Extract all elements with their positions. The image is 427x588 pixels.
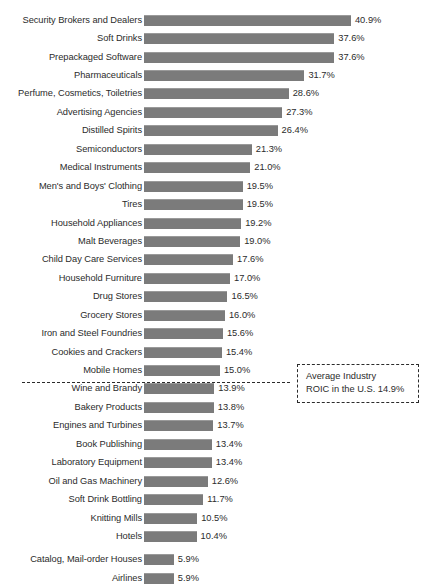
bar-area: 5.9% [144,554,427,565]
category-label: Malt Beverages [0,236,144,247]
value-label: 16.5% [231,291,257,302]
bar [144,52,334,63]
value-label: 21.3% [256,144,282,155]
bar-area: 15.6% [144,328,427,339]
value-label: 26.4% [282,125,308,136]
bar [144,476,208,487]
bar-area: 26.4% [144,125,427,136]
bar-area: 10.4% [144,531,427,542]
category-label: Soft Drinks [0,33,144,44]
value-label: 19.5% [247,199,273,210]
category-label: Security Brokers and Dealers [0,15,144,26]
category-label: Grocery Stores [0,310,144,321]
category-label: Cookies and Crackers [0,347,144,358]
bar-area: 21.3% [144,144,427,155]
bar-row: Hotels10.4% [0,527,427,545]
value-label: 16.0% [229,310,255,321]
value-label: 13.8% [218,402,244,413]
annotation-line-1: Average Industry [306,370,411,383]
category-label: Engines and Turbines [0,420,144,431]
bar [144,236,240,247]
category-label: Book Publishing [0,439,144,450]
category-label: Airlines [0,573,144,584]
bar-area: 5.9% [144,573,427,584]
category-label: Iron and Steel Foundries [0,328,144,339]
bar [144,328,223,339]
value-label: 13.4% [216,457,242,468]
bar-area: 21.0% [144,162,427,173]
category-label: Distilled Spirits [0,125,144,136]
bar-row: Drug Stores16.5% [0,288,427,306]
bar [144,457,212,468]
bar-row: Child Day Care Services17.6% [0,251,427,269]
category-label: Semiconductors [0,144,144,155]
value-label: 19.2% [245,218,271,229]
bar-row: Laboratory Equipment13.4% [0,454,427,472]
category-label: Child Day Care Services [0,254,144,265]
value-label: 12.6% [212,476,238,487]
bar-row: Soft Drink Bottling11.7% [0,490,427,508]
category-label: Laboratory Equipment [0,457,144,468]
bar [144,199,243,210]
bar-row: Security Brokers and Dealers40.9% [0,11,427,29]
category-label: Mobile Homes [0,365,144,376]
bar [144,573,174,584]
value-label: 11.7% [207,494,233,505]
bar [144,420,213,431]
bar [144,291,227,302]
category-label: Drug Stores [0,291,144,302]
bar-area: 37.6% [144,52,427,63]
bar [144,494,203,505]
bar-area: 13.7% [144,420,427,431]
bar [144,439,212,450]
bar-area: 12.6% [144,476,427,487]
bar [144,273,230,284]
value-label: 10.5% [201,513,227,524]
bar-row: Malt Beverages19.0% [0,232,427,250]
annotation-line-2: ROIC in the U.S. 14.9% [306,383,411,396]
bar-rows: Security Brokers and Dealers40.9%Soft Dr… [0,11,427,588]
value-label: 15.4% [226,347,252,358]
bar-row: Engines and Turbines13.7% [0,417,427,435]
bar-area: 37.6% [144,33,427,44]
value-label: 27.3% [286,107,312,118]
bar-row: Men's and Boys' Clothing19.5% [0,177,427,195]
bar [144,15,351,26]
bar-area: 19.0% [144,236,427,247]
value-label: 17.0% [234,273,260,284]
bar-area: 17.0% [144,273,427,284]
category-label: Wine and Brandy [0,383,144,394]
value-label: 28.6% [293,88,319,99]
bar-row: Catalog, Mail-order Houses5.9% [0,551,427,569]
bar [144,347,222,358]
bar-row: Tires19.5% [0,195,427,213]
bar [144,218,241,229]
bar [144,33,334,44]
bar [144,70,304,81]
bar [144,144,252,155]
category-label: Men's and Boys' Clothing [0,181,144,192]
bar-row: Airlines5.9% [0,569,427,587]
bar-area: 40.9% [144,15,427,26]
average-annotation-box: Average Industry ROIC in the U.S. 14.9% [297,364,419,403]
bar-area: 13.8% [144,402,427,413]
bar-area: 31.7% [144,70,427,81]
value-label: 40.9% [355,15,381,26]
category-label: Perfume, Cosmetics, Toiletries [0,88,144,99]
value-label: 31.7% [308,70,334,81]
bar-row: Cookies and Crackers15.4% [0,343,427,361]
bar-area: 13.4% [144,439,427,450]
value-label: 5.9% [178,573,199,584]
bar-row: Advertising Agencies27.3% [0,103,427,121]
bar-area: 17.6% [144,254,427,265]
bar-area: 19.5% [144,181,427,192]
bar-area: 28.6% [144,88,427,99]
bar-area: 11.7% [144,494,427,505]
bar [144,254,233,265]
value-label: 13.9% [218,383,244,394]
value-label: 19.5% [247,181,273,192]
value-label: 15.0% [224,365,250,376]
value-label: 21.0% [254,162,280,173]
category-label: Catalog, Mail-order Houses [0,554,144,565]
